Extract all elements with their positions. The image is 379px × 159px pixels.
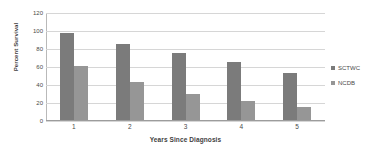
legend-label: NCDB xyxy=(338,79,355,87)
bar-ncdb-2 xyxy=(130,82,144,120)
bar-sctwc-4 xyxy=(227,62,241,120)
bar-sctwc-3 xyxy=(172,53,186,120)
legend-label: SCTWC xyxy=(338,64,360,72)
bar-group xyxy=(116,13,144,120)
bar-sctwc-5 xyxy=(283,73,297,120)
bar-ncdb-3 xyxy=(186,94,200,120)
y-axis-tick: 60 xyxy=(23,64,43,70)
gridline xyxy=(46,121,325,122)
legend-swatch-icon xyxy=(331,66,335,70)
bar-group xyxy=(283,13,311,120)
y-axis-tick-labels: 020406080100120 xyxy=(23,13,43,121)
chart-legend: SCTWCNCDB xyxy=(331,64,377,94)
bar-ncdb-1 xyxy=(74,66,88,120)
bar-ncdb-5 xyxy=(297,107,311,120)
y-axis-tick: 0 xyxy=(23,118,43,124)
y-axis-tick: 120 xyxy=(23,10,43,16)
bar-group xyxy=(172,13,200,120)
legend-item-ncdb[interactable]: NCDB xyxy=(331,79,377,87)
x-axis-title: Years Since Diagnosis xyxy=(46,136,325,143)
x-axis-tick: 2 xyxy=(115,123,145,131)
y-axis-tick: 80 xyxy=(23,46,43,52)
legend-swatch-icon xyxy=(331,81,335,85)
bar-sctwc-2 xyxy=(116,44,130,120)
plot-area xyxy=(46,13,325,121)
x-axis-tick: 5 xyxy=(282,123,312,131)
bar-group xyxy=(227,13,255,120)
x-axis-tick: 4 xyxy=(226,123,256,131)
bar-ncdb-4 xyxy=(241,101,255,120)
y-axis-tick: 20 xyxy=(23,100,43,106)
y-axis-tick: 40 xyxy=(23,82,43,88)
x-axis-tick: 3 xyxy=(171,123,201,131)
x-axis-tick-labels: 12345 xyxy=(46,123,325,135)
bar-chart: Percent Survival 020406080100120 12345 Y… xyxy=(0,0,379,159)
bar-sctwc-1 xyxy=(60,33,74,120)
legend-item-sctwc[interactable]: SCTWC xyxy=(331,64,377,72)
y-axis-tick: 100 xyxy=(23,28,43,34)
x-axis-tick: 1 xyxy=(59,123,89,131)
bar-group xyxy=(60,13,88,120)
y-axis-title: Percent Survival xyxy=(13,10,19,84)
bars-layer xyxy=(46,13,325,121)
x-axis-line xyxy=(46,120,325,121)
